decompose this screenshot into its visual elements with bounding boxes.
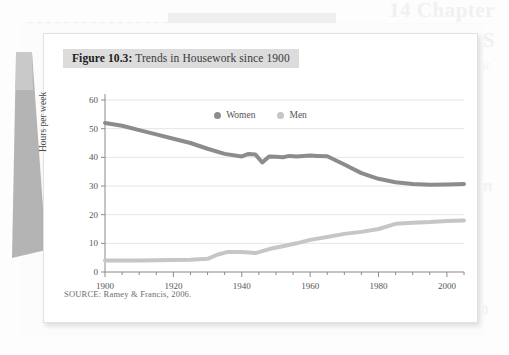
- y-axis-ticks: 0102030405060: [89, 95, 105, 277]
- svg-text:40: 40: [89, 152, 99, 162]
- line-chart-svg: 0102030405060 190019201940196019802000: [44, 34, 479, 324]
- svg-text:1980: 1980: [370, 281, 389, 291]
- svg-text:20: 20: [89, 210, 99, 220]
- chart-plot-area: Hours per week 0102030405060 19001920194…: [44, 34, 479, 324]
- figure-card: Figure 10.3: Trends in Housework since 1…: [43, 33, 478, 323]
- svg-text:1960: 1960: [301, 281, 320, 291]
- svg-text:60: 60: [89, 95, 99, 105]
- svg-text:2000: 2000: [438, 281, 457, 291]
- svg-text:50: 50: [89, 124, 99, 134]
- svg-text:30: 30: [89, 181, 99, 191]
- svg-text:1940: 1940: [233, 281, 252, 291]
- svg-text:0: 0: [94, 267, 99, 277]
- ghost-heading-primary: 14 Chapter: [389, 0, 495, 23]
- data-line-men: [105, 220, 464, 260]
- data-line-women: [105, 123, 464, 185]
- source-note: SOURCE: Ramey & Francis, 2006.: [64, 289, 191, 299]
- svg-text:10: 10: [89, 238, 99, 248]
